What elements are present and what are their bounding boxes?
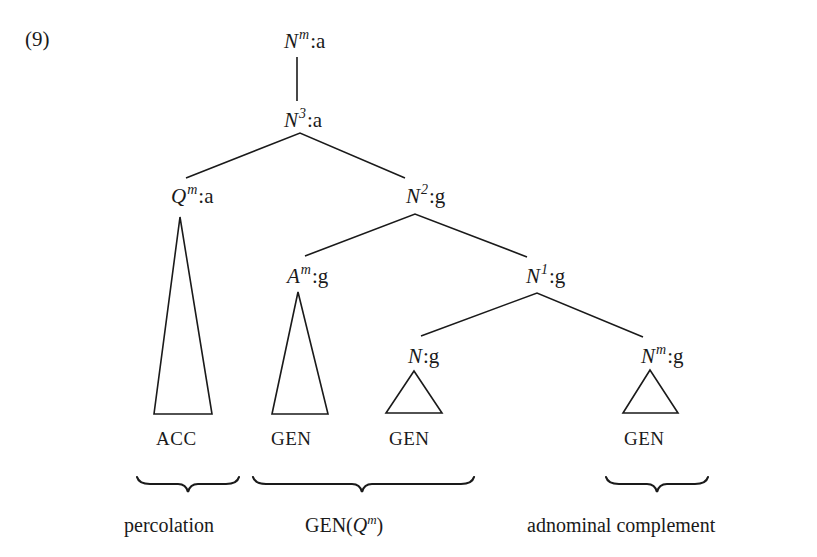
node-case: g xyxy=(555,264,566,288)
node-category: N xyxy=(641,344,655,368)
edge-n1-branches xyxy=(421,293,643,337)
node-case: a xyxy=(204,184,213,208)
node-category: Q xyxy=(171,184,186,208)
node-superscript: m xyxy=(187,182,197,197)
node-am: Am:g xyxy=(287,266,328,287)
node-category: N xyxy=(406,184,420,208)
leaf-case-gen-am: GEN xyxy=(271,429,312,448)
edge-n3-branches xyxy=(186,133,405,178)
triangle-qm xyxy=(154,217,212,414)
edge-n2-branches xyxy=(305,214,527,257)
node-category: N xyxy=(526,264,540,288)
node-n: N:g xyxy=(408,346,439,367)
node-case: g xyxy=(318,264,329,288)
node-case: g xyxy=(435,184,446,208)
annotation-percolation: percolation xyxy=(124,515,214,535)
node-category: N xyxy=(284,29,298,53)
leaf-case-acc: ACC xyxy=(156,429,197,448)
node-category: N xyxy=(284,108,298,132)
annotation-adnominal-complement: adnominal complement xyxy=(527,515,715,535)
node-case: a xyxy=(313,108,322,132)
tree-lines xyxy=(0,0,817,557)
underbrace-gen-qm xyxy=(253,477,474,492)
node-case: g xyxy=(429,344,440,368)
node-category: N xyxy=(408,344,422,368)
node-category: A xyxy=(287,264,300,288)
leaf-case-gen-nm: GEN xyxy=(624,429,665,448)
node-n2: N2:g xyxy=(406,186,445,207)
node-superscript: 2 xyxy=(421,182,428,197)
node-root: Nm:a xyxy=(284,31,325,52)
syntax-tree-diagram: (9) Nm:a N3:a Qm:a N2:g Am:g N1:g N:g Nm… xyxy=(0,0,817,557)
triangle-am xyxy=(272,292,328,414)
triangle-n xyxy=(386,371,442,413)
example-number: (9) xyxy=(25,29,50,50)
underbrace-adnominal xyxy=(606,477,708,492)
annotation-gen-qm: GEN(Qm) xyxy=(305,515,383,535)
node-case: a xyxy=(316,29,325,53)
node-superscript: m xyxy=(301,262,311,277)
underbrace-percolation xyxy=(137,477,239,492)
node-superscript: m xyxy=(299,27,309,42)
node-n3: N3:a xyxy=(284,110,322,131)
node-qm: Qm:a xyxy=(171,186,213,207)
node-superscript: 3 xyxy=(299,106,306,121)
node-nm: Nm:g xyxy=(641,346,683,367)
node-superscript: m xyxy=(656,342,666,357)
node-superscript: 1 xyxy=(541,262,548,277)
leaf-case-gen-n: GEN xyxy=(389,429,430,448)
node-n1: N1:g xyxy=(526,266,565,287)
node-case: g xyxy=(673,344,684,368)
triangle-nm xyxy=(623,370,678,413)
